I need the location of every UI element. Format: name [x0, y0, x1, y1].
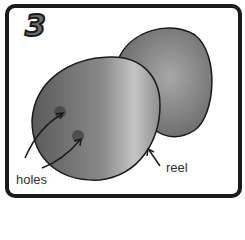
reel-front-disc: [32, 57, 160, 180]
holes-label: holes: [16, 172, 47, 187]
reel-label: reel: [166, 160, 188, 175]
hole-1: [54, 106, 66, 118]
